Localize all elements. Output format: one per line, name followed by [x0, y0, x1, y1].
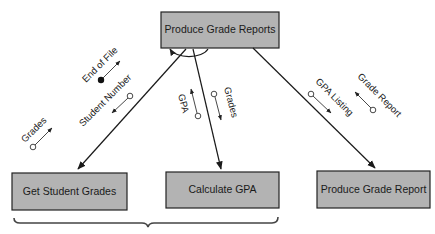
connector-produce-report	[253, 48, 375, 168]
module-label: Calculate GPA	[188, 183, 256, 195]
structure-chart-diagram: Produce Grade Reports Get Student Grades…	[0, 0, 435, 234]
loop-arc-icon	[170, 49, 208, 57]
data-couple-icon	[195, 113, 201, 119]
couple-label: GPA	[176, 93, 192, 115]
couple-label: Grade Report	[356, 71, 405, 120]
module-label: Produce Grade Reports	[165, 23, 276, 35]
module-label: Get Student Grades	[23, 185, 116, 197]
couple-label: GPA Listing	[314, 76, 356, 118]
module-produce-grade-reports: Produce Grade Reports	[161, 12, 279, 48]
couple-grades-left: Grades	[19, 114, 52, 149]
couple-end-of-file: End of File	[80, 45, 120, 85]
couple-label: Grades	[19, 114, 49, 144]
module-get-student-grades: Get Student Grades	[12, 173, 127, 210]
grouping-brace	[14, 217, 278, 227]
connector-calc-gpa	[193, 49, 221, 169]
module-produce-grade-report: Produce Grade Report	[317, 171, 430, 208]
couple-grade-report: Grade Report	[355, 71, 404, 120]
couple-label: Grades	[222, 86, 241, 119]
data-couple-icon	[308, 91, 314, 97]
module-label: Produce Grade Report	[321, 183, 427, 195]
data-couple-icon	[127, 93, 133, 99]
module-calculate-gpa: Calculate GPA	[166, 172, 279, 208]
couple-gpa-listing: GPA Listing	[308, 76, 356, 118]
data-couple-icon	[30, 144, 36, 150]
couple-gpa: GPA	[176, 89, 201, 119]
couple-grades-mid: Grades	[211, 86, 241, 120]
data-couple-icon	[211, 91, 217, 97]
data-couple-icon	[370, 107, 376, 113]
